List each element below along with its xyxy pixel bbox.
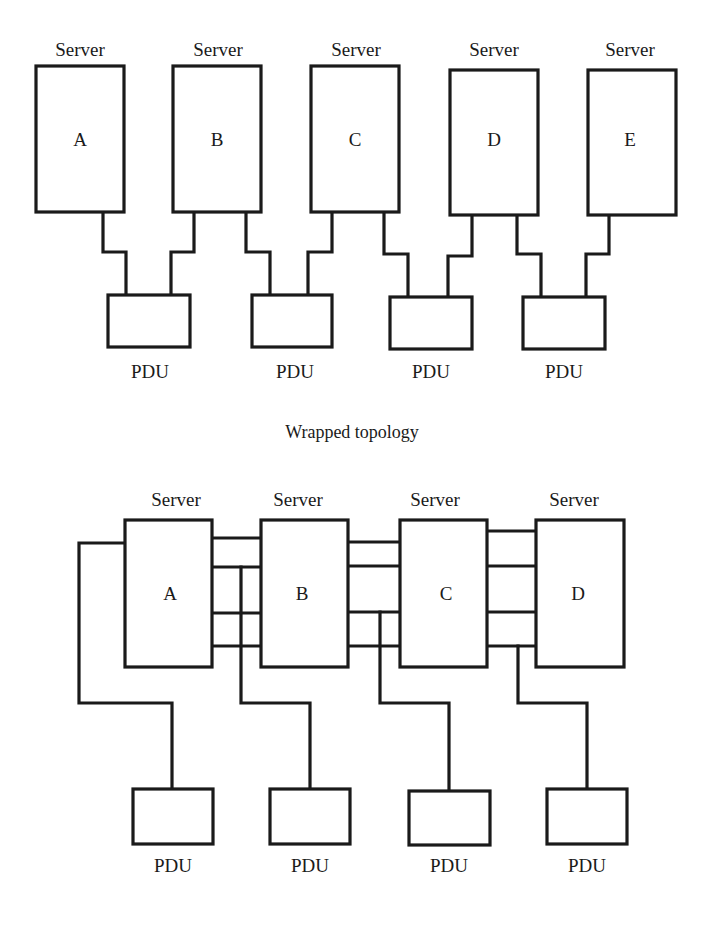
server-letter-a: A [73,129,87,150]
server-d: D [536,520,624,667]
server-label-c: Server [331,39,381,60]
server-a: A [36,66,124,212]
server-a: A [125,520,212,667]
server-label-b: Server [273,489,323,510]
pdu-4: PDU [523,297,605,382]
pdu-label-2: PDU [276,361,314,382]
pdu-2: PDU [270,789,350,876]
server-b: B [173,66,261,212]
pdu-label-1: PDU [154,855,192,876]
wrapped-topology-diagram: Server Server Server Server Server A B [36,39,676,442]
server-label-a: Server [55,39,105,60]
wire-b-pdu2 [246,212,270,295]
wire-c-pdu2 [308,212,332,295]
server-e: E [588,70,676,215]
wire-d-pdu3 [448,215,472,296]
wire-c-pdu3 [384,212,408,296]
server-c: C [400,520,487,667]
pdu-label-3: PDU [430,855,468,876]
pdu-label-4: PDU [568,855,606,876]
interconnected-topology-diagram: Server Server Server Server A [79,489,627,876]
server-label-a: Server [151,489,201,510]
server-letter-c: C [440,583,453,604]
wire-e-pdu4 [586,215,609,296]
server-letter-e: E [624,129,636,150]
pdu-1: PDU [108,295,190,382]
wire-b-pdu1 [171,212,194,295]
server-letter-b: B [211,129,224,150]
pdu-label-2: PDU [291,855,329,876]
server-label-c: Server [410,489,460,510]
pdu-4: PDU [547,789,627,876]
server-label-e: Server [605,39,655,60]
server-label-d: Server [469,39,519,60]
server-d: D [450,70,538,215]
pdu-3: PDU [409,791,490,876]
topology-diagrams: Server Server Server Server Server A B [0,0,702,931]
pdu-label-3: PDU [412,361,450,382]
server-letter-d: D [487,129,501,150]
caption-wrapped-topology: Wrapped topology [285,422,419,442]
server-label-d: Server [549,489,599,510]
pdu-1: PDU [133,789,213,876]
wire-d-pdu4 [517,215,541,296]
server-label-b: Server [193,39,243,60]
pdu-label-1: PDU [131,361,169,382]
server-b: B [261,520,348,667]
pdu-2: PDU [252,295,332,382]
server-letter-d: D [571,583,585,604]
server-letter-a: A [163,583,177,604]
server-c: C [311,66,399,212]
server-letter-b: B [296,583,309,604]
pdu-3: PDU [390,297,472,382]
server-letter-c: C [349,129,362,150]
pdu-label-4: PDU [545,361,583,382]
wire-a-pdu1 [103,212,126,295]
